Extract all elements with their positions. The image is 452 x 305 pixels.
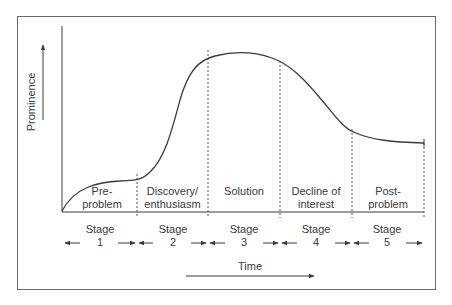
region-label-discovery: Discovery/ enthusiasm — [137, 185, 208, 211]
stage-label-5: Stage 5 — [357, 223, 417, 249]
region-label-pre-problem: Pre- problem — [72, 185, 132, 211]
stage-number: 3 — [214, 236, 274, 249]
stage-word: Stage — [286, 223, 346, 236]
stage-word: Stage — [143, 223, 203, 236]
stage-word: Stage — [357, 223, 417, 236]
stage-label-1: Stage 1 — [70, 223, 130, 249]
stage-label-3: Stage 3 — [214, 223, 274, 249]
x-axis-label: Time — [215, 260, 285, 273]
region-line1: Discovery/ — [137, 185, 208, 198]
region-line1: Solution — [208, 185, 280, 198]
stage-label-4: Stage 4 — [286, 223, 346, 249]
stage-number: 4 — [286, 236, 346, 249]
region-label-decline: Decline of interest — [280, 185, 352, 211]
region-line2: interest — [280, 198, 352, 211]
stage-number: 2 — [143, 236, 203, 249]
y-axis-label: Prominence — [25, 72, 37, 132]
stage-number: 1 — [70, 236, 130, 249]
stage-word: Stage — [70, 223, 130, 236]
stage-word: Stage — [214, 223, 274, 236]
region-label-post-problem: Post- problem — [352, 185, 424, 211]
stage-label-2: Stage 2 — [143, 223, 203, 249]
stage-number: 5 — [357, 236, 417, 249]
region-line1: Decline of — [280, 185, 352, 198]
region-line2: problem — [72, 198, 132, 211]
region-line1: Post- — [352, 185, 424, 198]
region-line2: enthusiasm — [137, 198, 208, 211]
region-line2: problem — [352, 198, 424, 211]
region-line1: Pre- — [72, 185, 132, 198]
region-label-solution: Solution — [208, 185, 280, 198]
